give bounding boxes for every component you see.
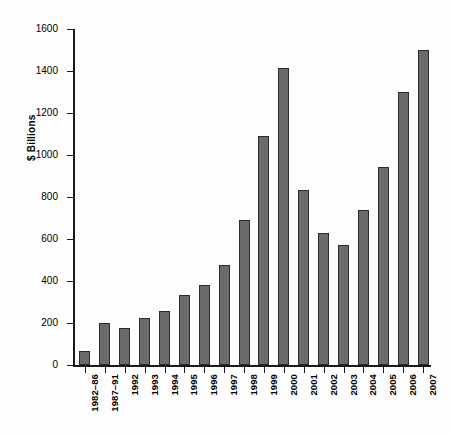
plot-area: 02004006008001000120014001600 [73, 29, 431, 365]
y-tick-label: 1200 [18, 106, 58, 119]
bar [298, 190, 309, 365]
x-tick [204, 366, 205, 373]
x-axis-label: 2001 [308, 374, 320, 432]
x-tick [244, 366, 245, 373]
x-axis-label: 1987–91 [109, 374, 121, 432]
x-axis-label: 2003 [348, 374, 360, 432]
x-tick [105, 366, 106, 373]
bar [119, 328, 130, 365]
x-tick [264, 366, 265, 373]
x-axis-label: 1998 [248, 374, 260, 432]
x-axis-label: 2004 [367, 374, 379, 432]
y-tick-label: 0 [18, 358, 58, 371]
y-tick-label: 400 [18, 274, 58, 287]
x-axis-label: 2007 [427, 374, 439, 432]
x-tick [125, 366, 126, 373]
y-tick: 1600 [67, 29, 73, 30]
y-tick-label: 1600 [18, 22, 58, 35]
bar [159, 311, 170, 365]
bar-chart: $ Billions 02004006008001000120014001600… [0, 0, 451, 436]
x-tick [145, 366, 146, 373]
bar [219, 265, 230, 365]
bar [99, 323, 110, 365]
y-tick: 1400 [67, 71, 73, 72]
bar [179, 295, 190, 365]
y-tick-label: 1000 [18, 148, 58, 161]
x-tick [165, 366, 166, 373]
x-axis-label: 2002 [328, 374, 340, 432]
x-axis-label: 1994 [169, 374, 181, 432]
bar [378, 167, 389, 365]
x-tick [423, 366, 424, 373]
y-tick-label: 600 [18, 232, 58, 245]
y-tick-label: 200 [18, 316, 58, 329]
bar [338, 245, 349, 365]
bar [278, 68, 289, 365]
y-tick-label: 1400 [18, 64, 58, 77]
y-tick: 600 [67, 239, 73, 240]
bar [199, 285, 210, 365]
bar [239, 220, 250, 365]
y-tick-label: 800 [18, 190, 58, 203]
x-tick [184, 366, 185, 373]
bar [398, 92, 409, 365]
x-axis-label: 1992 [129, 374, 141, 432]
x-axis-label: 2000 [288, 374, 300, 432]
y-tick: 800 [67, 197, 73, 198]
x-axis-label: 1997 [228, 374, 240, 432]
bar [318, 233, 329, 365]
y-tick: 1000 [67, 155, 73, 156]
y-tick: 400 [67, 281, 73, 282]
bar [358, 210, 369, 365]
x-axis-label: 1982–86 [89, 374, 101, 432]
x-axis-label: 2005 [387, 374, 399, 432]
bar [418, 50, 429, 365]
x-tick [224, 366, 225, 373]
x-tick [85, 366, 86, 373]
x-tick [403, 366, 404, 373]
y-tick: 0 [67, 365, 73, 366]
x-tick [363, 366, 364, 373]
bar [258, 136, 269, 365]
bar [139, 318, 150, 365]
x-tick [344, 366, 345, 373]
x-axis-label: 1995 [188, 374, 200, 432]
y-axis-line [73, 29, 75, 366]
y-tick: 200 [67, 323, 73, 324]
x-axis-label: 1993 [149, 374, 161, 432]
x-tick [383, 366, 384, 373]
x-axis-label: 1999 [268, 374, 280, 432]
y-tick: 1200 [67, 113, 73, 114]
x-axis-label: 1996 [208, 374, 220, 432]
x-tick [304, 366, 305, 373]
x-axis-line [73, 365, 431, 367]
x-axis-labels: 1982–861987–9119921993199419951996199719… [73, 374, 431, 434]
x-tick [284, 366, 285, 373]
x-tick [324, 366, 325, 373]
x-axis-label: 2006 [407, 374, 419, 432]
bar [79, 351, 90, 365]
